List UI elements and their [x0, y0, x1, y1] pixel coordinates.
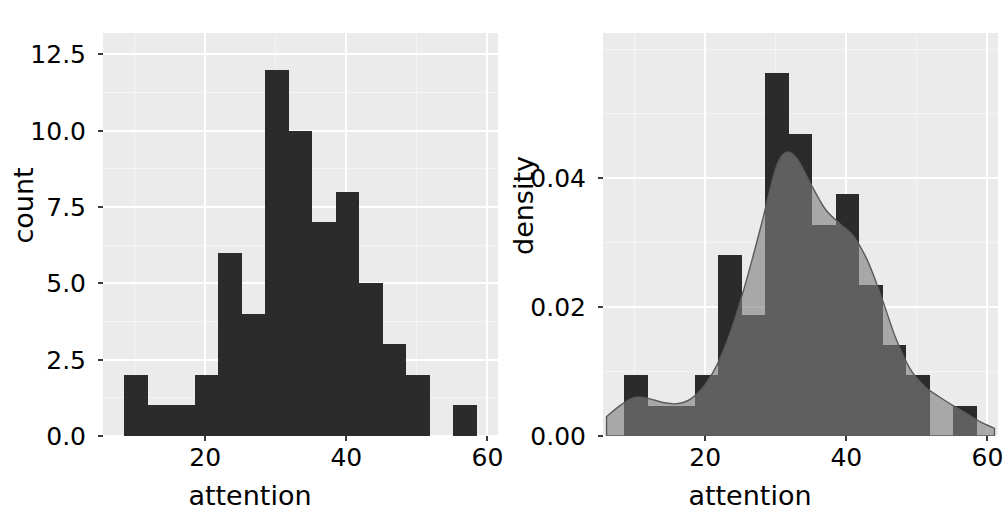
x-axis-tick-mark	[486, 436, 488, 441]
x-axis-tick-label: 60	[972, 443, 1003, 472]
x-axis-tick-mark	[204, 436, 206, 441]
x-axis-tick-label: 20	[689, 443, 721, 472]
histogram-bar	[406, 375, 429, 436]
histogram-bar	[124, 375, 147, 436]
histogram-bar	[289, 131, 313, 436]
x-axis-tick-label: 20	[189, 443, 221, 472]
histogram-bar	[336, 192, 359, 436]
x-axis-tick-label: 40	[330, 443, 362, 472]
y-axis-tick-label: 2.5	[0, 345, 86, 374]
histogram-bar	[359, 283, 383, 436]
panel-count: count 0.02.55.07.510.012.5 204060 attent…	[0, 0, 500, 515]
x-axis-title-density: attention	[500, 480, 1000, 511]
y-axis-tick-label: 7.5	[0, 193, 86, 222]
density-curve	[603, 33, 998, 436]
x-axis-tick-mark	[986, 436, 988, 441]
histogram-bar	[195, 375, 218, 436]
histogram-bar	[242, 314, 265, 436]
y-axis-tick-label: 5.0	[0, 269, 86, 298]
x-axis-tick-mark	[345, 436, 347, 441]
x-axis-tick-label: 60	[472, 443, 504, 472]
panel-density: density 0.000.020.04 204060 attention	[500, 0, 1000, 515]
plot-area-count	[103, 33, 498, 436]
histogram-bar	[265, 70, 288, 436]
histogram-bar	[383, 344, 406, 436]
plot-area-density	[603, 33, 998, 436]
histogram-bar	[218, 253, 242, 436]
y-axis-tick-label: 0.02	[500, 293, 586, 322]
x-axis-tick-mark	[704, 436, 706, 441]
density-area	[607, 152, 995, 436]
y-axis-tick-label: 10.0	[0, 116, 86, 145]
histogram-bar	[148, 405, 172, 436]
histogram-bar	[453, 405, 476, 436]
x-axis-tick-mark	[845, 436, 847, 441]
y-axis-tick-label: 0.04	[500, 164, 586, 193]
y-axis-tick-label: 12.5	[0, 40, 86, 69]
histogram-bar	[171, 405, 194, 436]
x-axis-title-count: attention	[0, 480, 500, 511]
histogram-bar	[312, 222, 335, 436]
x-axis-tick-label: 40	[830, 443, 862, 472]
